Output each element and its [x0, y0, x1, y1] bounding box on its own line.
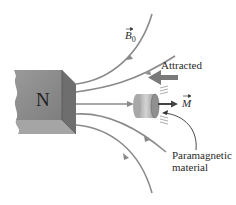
field-line-5 [76, 125, 152, 193]
field-subscript: 0 [132, 35, 136, 44]
material-label-line1: Paramagnetic [172, 150, 232, 161]
field-symbol: B [125, 29, 132, 41]
field-label: B0 [125, 30, 136, 45]
leader-line [164, 113, 196, 150]
pole-label: N [36, 90, 50, 109]
field-line-4 [76, 114, 166, 152]
arrowhead-icon [123, 153, 129, 160]
magnetization-arrow [158, 101, 178, 108]
force-arrow [148, 70, 178, 85]
material-label-line2: material [172, 162, 208, 173]
arrowhead-icon [127, 101, 134, 107]
field-line-1 [76, 14, 152, 84]
force-label: Attracted [161, 60, 202, 71]
magnetization-label: M [182, 98, 191, 109]
leader-arrowhead-icon [162, 110, 168, 115]
